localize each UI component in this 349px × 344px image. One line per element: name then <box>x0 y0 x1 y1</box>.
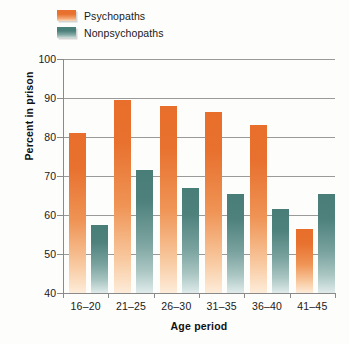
bar-fill <box>114 100 131 293</box>
bar-fill <box>69 133 86 293</box>
x-axis-labels: 16–2021–2526–3031–3536–4041–45 <box>63 300 335 316</box>
x-tick-label: 21–25 <box>108 300 154 312</box>
x-tick-mark <box>290 293 291 298</box>
bar-psychopaths <box>205 112 222 293</box>
bar-fill <box>205 112 222 293</box>
bar-psychopaths <box>114 100 131 293</box>
legend-label-psychopaths: Psychopaths <box>84 10 145 22</box>
x-tick-label: 36–40 <box>244 300 290 312</box>
bar-fill <box>272 209 289 293</box>
bar-nonpsychopaths <box>136 170 153 293</box>
bar-fill <box>91 225 108 293</box>
x-tick-mark <box>63 293 64 298</box>
bar-groups <box>63 59 335 293</box>
bar-fill <box>136 170 153 293</box>
x-tick-mark <box>199 293 200 298</box>
y-tick-label: 100 <box>20 53 56 65</box>
y-axis-labels: 405060708090100 <box>20 0 56 344</box>
bar-group <box>244 59 289 293</box>
x-tick-label: 41–45 <box>289 300 335 312</box>
x-tick-mark <box>154 293 155 298</box>
bar-group <box>290 59 335 293</box>
chart-legend: Psychopaths Nonpsychopaths <box>57 8 257 42</box>
bar-fill <box>318 194 335 293</box>
bar-group <box>63 59 108 293</box>
legend-item-psychopaths: Psychopaths <box>57 8 257 23</box>
bar-fill <box>160 106 177 293</box>
nonpsychopaths-swatch-icon <box>57 27 76 38</box>
x-tick-label: 16–20 <box>63 300 109 312</box>
x-tick-label: 31–35 <box>199 300 245 312</box>
bar-psychopaths <box>160 106 177 293</box>
bar-nonpsychopaths <box>227 194 244 293</box>
y-tick-label: 50 <box>20 248 56 260</box>
bar-fill <box>227 194 244 293</box>
bar-nonpsychopaths <box>318 194 335 293</box>
psychopaths-swatch-icon <box>57 10 76 21</box>
y-tick-label: 80 <box>20 131 56 143</box>
x-tick-mark <box>244 293 245 298</box>
bar-group <box>108 59 153 293</box>
legend-item-nonpsychopaths: Nonpsychopaths <box>57 25 257 40</box>
bar-group <box>154 59 199 293</box>
bar-psychopaths <box>69 133 86 293</box>
bar-nonpsychopaths <box>91 225 108 293</box>
bar-fill <box>250 125 267 293</box>
bar-nonpsychopaths <box>272 209 289 293</box>
x-tick-label: 26–30 <box>153 300 199 312</box>
y-tick-label: 70 <box>20 170 56 182</box>
bar-fill <box>182 188 199 293</box>
bar-psychopaths <box>250 125 267 293</box>
y-tick-label: 60 <box>20 209 56 221</box>
y-tick-label: 40 <box>20 287 56 299</box>
bar-chart-figure: Psychopaths Nonpsychopaths Percent in pr… <box>0 0 349 344</box>
bar-psychopaths <box>296 229 313 293</box>
bar-fill <box>296 229 313 293</box>
bar-nonpsychopaths <box>182 188 199 293</box>
x-tick-mark <box>335 293 336 298</box>
bar-group <box>199 59 244 293</box>
legend-label-nonpsychopaths: Nonpsychopaths <box>84 27 164 39</box>
x-axis-title: Age period <box>63 320 335 332</box>
x-tick-mark <box>108 293 109 298</box>
y-tick-label: 90 <box>20 92 56 104</box>
